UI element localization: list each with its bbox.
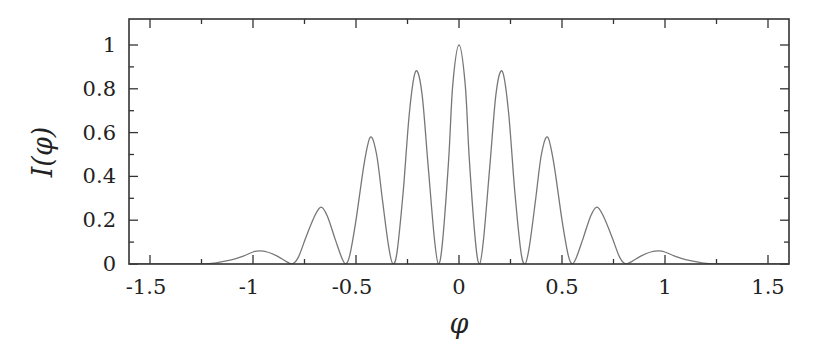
x-tick-label: -0.5: [332, 275, 373, 299]
y-axis-label: I(φ): [27, 127, 58, 179]
y-tick-label: 0.4: [83, 164, 116, 188]
x-axis-label: φ: [450, 308, 469, 339]
y-tick-label: 1: [103, 33, 116, 57]
x-tick-label: 0.5: [545, 275, 578, 299]
x-tick-label: 1: [658, 275, 671, 299]
y-tick-label: 0.8: [83, 77, 116, 101]
x-tick-label: 0: [452, 275, 465, 299]
x-tick-label: -1.5: [126, 275, 167, 299]
x-tick-label: 1.5: [751, 275, 784, 299]
y-tick-label: 0: [103, 252, 116, 276]
y-tick-labels: 00.20.40.60.81: [83, 33, 116, 276]
x-tick-labels: -1.5-1-0.500.511.5: [126, 275, 785, 299]
axis-ticks: [129, 19, 789, 264]
plot-frame: [129, 19, 789, 264]
interference-chart: -1.5-1-0.500.511.5 00.20.40.60.81 φ I(φ): [0, 0, 818, 351]
intensity-curve: [129, 45, 788, 264]
x-tick-label: -1: [239, 275, 259, 299]
y-tick-label: 0.2: [83, 208, 116, 232]
y-tick-label: 0.6: [83, 121, 116, 145]
